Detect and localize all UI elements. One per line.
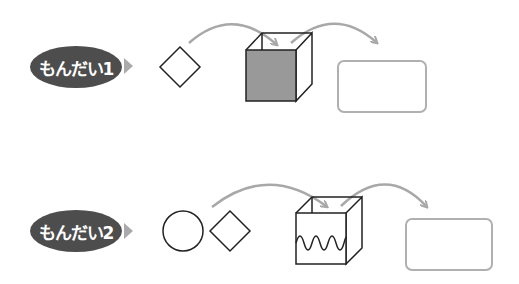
problem-2-label-text: もんだい2 <box>39 219 114 244</box>
circle-shape-2 <box>163 211 203 251</box>
answer-box-1[interactable] <box>338 61 426 112</box>
diamond-shape-2 <box>210 211 250 251</box>
answer-box-2[interactable] <box>406 219 492 270</box>
arrow-in-2 <box>212 185 326 207</box>
diamond-shape-1 <box>160 47 200 87</box>
pointer-triangle-1 <box>124 58 133 74</box>
box-cube-2 <box>296 197 362 264</box>
problem-2-label-pill: もんだい2 <box>30 210 122 252</box>
pointer-triangle-2 <box>124 223 133 239</box>
box-cube-1 <box>246 33 312 101</box>
arrow-out-2 <box>341 185 426 207</box>
arrow-in-1 <box>189 24 276 44</box>
